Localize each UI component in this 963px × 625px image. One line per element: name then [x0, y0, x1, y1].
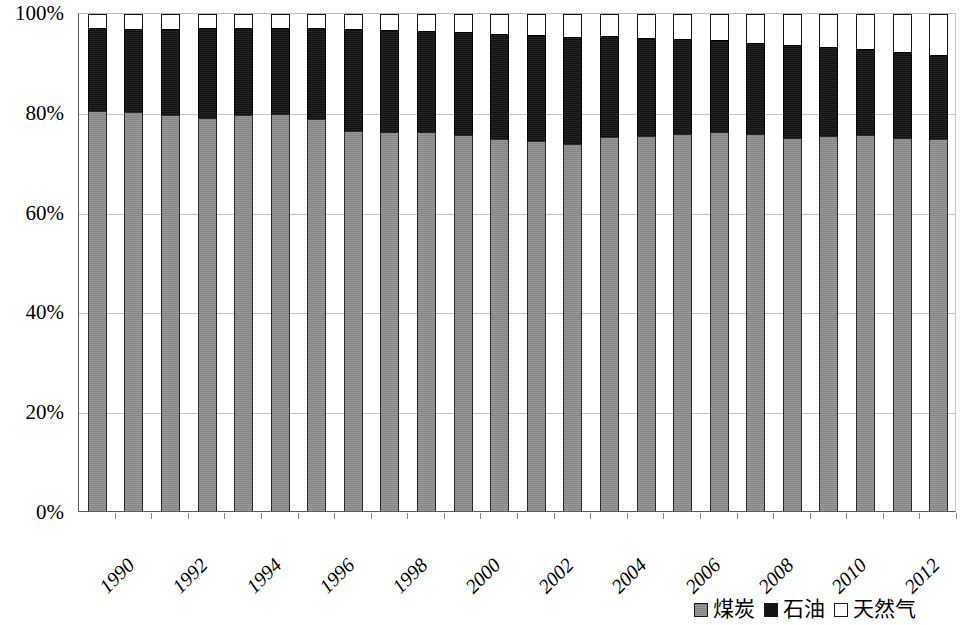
bar-1990[interactable]	[88, 12, 107, 511]
bar-1992[interactable]	[161, 12, 180, 511]
bar-2011[interactable]	[856, 12, 875, 511]
bar-segment-gas[interactable]	[344, 14, 363, 30]
bar-segment-gas[interactable]	[929, 14, 948, 56]
bar-segment-oil[interactable]	[380, 30, 399, 132]
bar-segment-coal[interactable]	[929, 139, 948, 511]
bar-2000[interactable]	[454, 12, 473, 511]
bar-segment-coal[interactable]	[198, 118, 217, 511]
bar-segment-coal[interactable]	[307, 119, 326, 511]
bar-segment-oil[interactable]	[637, 38, 656, 137]
bar-segment-oil[interactable]	[563, 37, 582, 145]
bar-segment-oil[interactable]	[819, 47, 838, 137]
bar-segment-oil[interactable]	[929, 55, 948, 140]
bar-1996[interactable]	[307, 12, 326, 511]
bar-segment-oil[interactable]	[454, 32, 473, 136]
bar-segment-oil[interactable]	[417, 31, 436, 133]
bar-segment-gas[interactable]	[563, 14, 582, 38]
bar-segment-oil[interactable]	[783, 45, 802, 139]
bar-2012[interactable]	[893, 12, 912, 511]
bar-1995[interactable]	[271, 12, 290, 511]
bar-2005[interactable]	[637, 12, 656, 511]
bar-segment-coal[interactable]	[673, 134, 692, 511]
bar-segment-coal[interactable]	[124, 112, 143, 511]
bar-segment-gas[interactable]	[307, 14, 326, 29]
bar-1991[interactable]	[124, 12, 143, 511]
bar-segment-gas[interactable]	[783, 14, 802, 46]
bar-segment-gas[interactable]	[124, 14, 143, 30]
bar-segment-oil[interactable]	[234, 28, 253, 116]
bar-segment-gas[interactable]	[637, 14, 656, 39]
bar-segment-oil[interactable]	[893, 52, 912, 139]
bar-segment-gas[interactable]	[893, 14, 912, 53]
bar-2010[interactable]	[819, 12, 838, 511]
bar-segment-gas[interactable]	[600, 14, 619, 37]
legend-item-gas[interactable]: 天然气	[834, 599, 916, 620]
bar-segment-oil[interactable]	[673, 39, 692, 135]
bar-segment-gas[interactable]	[88, 14, 107, 29]
bar-segment-coal[interactable]	[637, 136, 656, 511]
bar-segment-coal[interactable]	[88, 111, 107, 511]
bar-2008[interactable]	[746, 12, 765, 511]
bar-segment-gas[interactable]	[234, 14, 253, 29]
bar-segment-oil[interactable]	[710, 40, 729, 133]
bar-segment-gas[interactable]	[490, 14, 509, 35]
bar-2006[interactable]	[673, 12, 692, 511]
bar-2009[interactable]	[783, 12, 802, 511]
bar-segment-coal[interactable]	[819, 136, 838, 511]
bar-segment-gas[interactable]	[454, 14, 473, 33]
bar-1993[interactable]	[198, 12, 217, 511]
bar-2013[interactable]	[929, 12, 948, 511]
bar-segment-coal[interactable]	[454, 135, 473, 511]
bar-segment-oil[interactable]	[344, 29, 363, 132]
bar-segment-gas[interactable]	[417, 14, 436, 32]
bar-segment-coal[interactable]	[161, 115, 180, 511]
bar-1998[interactable]	[380, 12, 399, 511]
bar-segment-gas[interactable]	[819, 14, 838, 48]
bar-segment-oil[interactable]	[746, 43, 765, 135]
bar-segment-gas[interactable]	[527, 14, 546, 36]
bar-segment-oil[interactable]	[490, 34, 509, 140]
bar-segment-gas[interactable]	[746, 14, 765, 44]
legend-item-coal[interactable]: 煤炭	[694, 599, 755, 620]
bar-segment-gas[interactable]	[710, 14, 729, 41]
bar-segment-oil[interactable]	[271, 28, 290, 115]
bar-segment-oil[interactable]	[198, 28, 217, 118]
bar-segment-gas[interactable]	[271, 14, 290, 29]
bar-segment-coal[interactable]	[856, 135, 875, 511]
bar-segment-coal[interactable]	[344, 131, 363, 511]
bar-segment-gas[interactable]	[673, 14, 692, 40]
bar-segment-gas[interactable]	[380, 14, 399, 31]
bar-segment-oil[interactable]	[600, 36, 619, 138]
bar-segment-coal[interactable]	[600, 137, 619, 511]
bar-segment-coal[interactable]	[893, 138, 912, 511]
bar-2001[interactable]	[490, 12, 509, 511]
bar-segment-coal[interactable]	[783, 138, 802, 511]
bar-segment-coal[interactable]	[746, 134, 765, 511]
bar-segment-coal[interactable]	[563, 144, 582, 511]
bar-segment-coal[interactable]	[710, 132, 729, 511]
bar-segment-oil[interactable]	[124, 29, 143, 113]
bar-segment-coal[interactable]	[417, 132, 436, 511]
x-tick-mark	[663, 513, 664, 519]
bar-2002[interactable]	[527, 12, 546, 511]
bar-1999[interactable]	[417, 12, 436, 511]
bar-segment-oil[interactable]	[856, 49, 875, 136]
bar-2004[interactable]	[600, 12, 619, 511]
bar-2003[interactable]	[563, 12, 582, 511]
bar-segment-gas[interactable]	[856, 14, 875, 50]
bar-segment-coal[interactable]	[234, 115, 253, 511]
bar-segment-gas[interactable]	[198, 14, 217, 29]
bar-segment-oil[interactable]	[161, 29, 180, 116]
bar-1994[interactable]	[234, 12, 253, 511]
bar-segment-gas[interactable]	[161, 14, 180, 30]
bar-segment-oil[interactable]	[88, 28, 107, 111]
bar-segment-coal[interactable]	[380, 132, 399, 511]
bar-segment-coal[interactable]	[527, 141, 546, 511]
bar-segment-coal[interactable]	[271, 114, 290, 511]
bar-1997[interactable]	[344, 12, 363, 511]
bar-2007[interactable]	[710, 12, 729, 511]
bar-segment-coal[interactable]	[490, 139, 509, 511]
bar-segment-oil[interactable]	[307, 28, 326, 120]
bar-segment-oil[interactable]	[527, 35, 546, 142]
legend-item-oil[interactable]: 石油	[764, 599, 825, 620]
